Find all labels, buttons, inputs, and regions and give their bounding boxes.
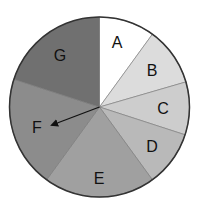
slice-label-b: B [147,62,158,79]
slice-label-c: C [157,100,169,117]
slice-label-e: E [94,170,105,187]
slice-label-a: A [112,34,123,51]
slice-label-d: D [146,138,158,155]
pie-chart: ABCDEFG [0,0,198,210]
slice-label-g: G [54,47,66,64]
slice-label-f: F [32,119,42,136]
